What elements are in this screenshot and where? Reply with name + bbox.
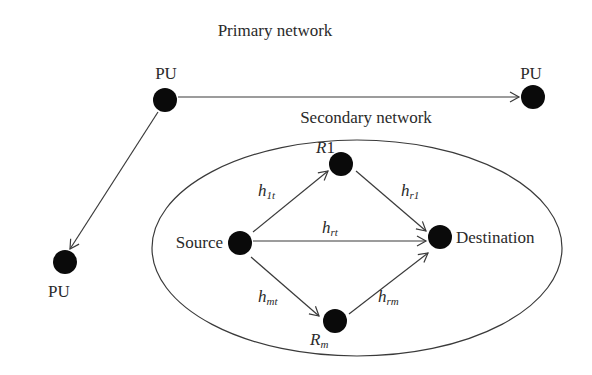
secondary-network-title: Secondary network (300, 108, 432, 127)
label-hrm: hrm (378, 287, 399, 307)
label-pu-right: PU (520, 64, 542, 83)
primary-network-title: Primary network (218, 21, 333, 40)
label-rm: Rm (309, 330, 328, 350)
node-destination (428, 225, 452, 249)
edge-pu-top-to-pu-bottom (70, 112, 158, 249)
label-pu-top: PU (155, 64, 177, 83)
edge-hr1 (356, 171, 426, 231)
node-rm (323, 309, 347, 333)
node-source (228, 231, 252, 255)
label-r1: R1 (315, 138, 335, 157)
network-diagram: Primary network Secondary network PU PU … (0, 0, 592, 375)
label-destination: Destination (456, 228, 535, 247)
label-hr1: hr1 (401, 181, 419, 201)
node-pu-right (521, 85, 545, 109)
label-source: Source (176, 233, 223, 252)
label-pu-bottom: PU (48, 282, 70, 301)
node-pu-top (153, 88, 177, 112)
node-pu-bottom (53, 250, 77, 274)
label-h1t: h1t (258, 181, 276, 201)
label-hmt: hmt (258, 287, 278, 307)
label-hrt: hrt (322, 218, 339, 238)
